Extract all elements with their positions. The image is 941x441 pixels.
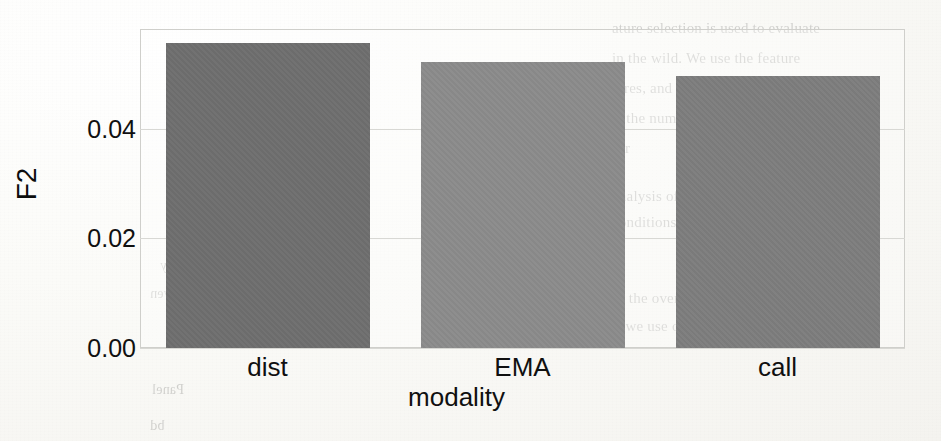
x-axis-title: modality [0, 382, 941, 413]
y-tick-label: 0.04 [40, 114, 136, 143]
y-axis-title: F2 [11, 139, 43, 229]
bar-call [676, 76, 880, 348]
gridline [140, 348, 905, 349]
x-axis-title-text: modality [408, 382, 505, 412]
x-tick-label: call [688, 352, 868, 383]
bar-dist [166, 43, 370, 348]
x-tick-label: EMA [433, 352, 613, 383]
y-tick-label: 0.02 [40, 224, 136, 253]
bar-chart: 0.000.020.04 F2 distEMAcall modality [0, 0, 941, 441]
bar-EMA [421, 62, 625, 348]
x-tick-label: dist [178, 352, 358, 383]
bars-container [140, 29, 905, 348]
y-tick-label: 0.00 [40, 334, 136, 363]
